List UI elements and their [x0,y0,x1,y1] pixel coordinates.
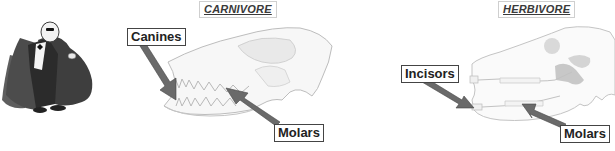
herbivore-molars-label: Molars [560,125,610,143]
herbivore-title: HERBIVORE [498,1,575,18]
carnivore-molars-label: Molars [274,124,324,142]
carnivore-title: CARNIVORE [199,1,277,18]
incisors-label: Incisors [401,65,459,83]
canines-label: Canines [127,28,186,46]
